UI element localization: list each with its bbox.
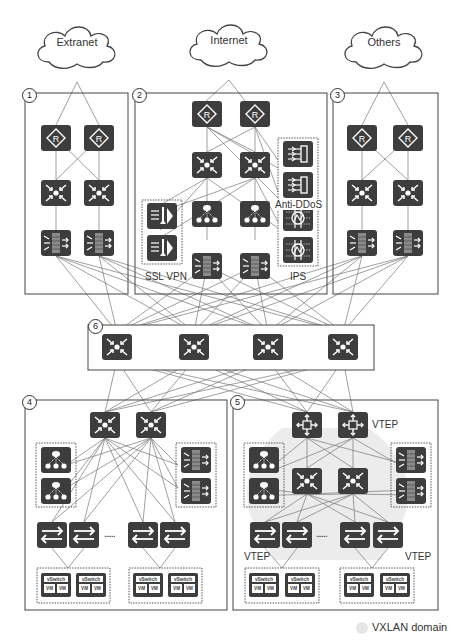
z5-access-switch-1-icon xyxy=(250,522,280,548)
z4-lb-2-icon xyxy=(41,478,71,504)
cloud-label-internet: Internet xyxy=(210,34,247,46)
anti-ddos-label: Anti-DDoS xyxy=(275,199,322,210)
z4-access-switch-1-icon xyxy=(37,522,67,548)
ssl-vpn-1-icon xyxy=(147,203,177,229)
z2-firewall-1-icon xyxy=(192,253,222,279)
z5-server-4-icon xyxy=(380,573,410,597)
z4-access-switch-4-icon xyxy=(160,522,190,548)
ssl-vpn-label: SSL VPN xyxy=(145,271,187,282)
z1-firewall-2-icon xyxy=(84,230,114,256)
vtep-right-label: VTEP xyxy=(405,551,431,562)
ssl-vpn-2-icon xyxy=(147,235,177,261)
zone-badge-2: 2 xyxy=(132,88,147,103)
z2-lb-1-icon xyxy=(192,201,222,227)
z3-router-2-icon xyxy=(393,125,423,151)
z3-router-1-icon xyxy=(347,125,377,151)
z1-switch-1-icon xyxy=(41,180,71,206)
z4-agg-switch-1-icon xyxy=(90,412,120,438)
legend-label: VXLAN domain xyxy=(372,621,447,633)
z2-router-2-icon xyxy=(240,101,270,127)
core-switch-1-icon xyxy=(102,334,132,360)
cloud-label-extranet: Extranet xyxy=(57,36,98,48)
z2-switch-1-icon xyxy=(192,152,222,178)
anti-ddos-2-icon xyxy=(283,172,313,198)
cloud-label-others: Others xyxy=(367,36,400,48)
z5-switch-1-icon xyxy=(292,468,322,494)
zone-badge-3: 3 xyxy=(330,88,345,103)
z5-access-switch-3-icon xyxy=(340,522,370,548)
z3-switch-2-icon xyxy=(393,180,423,206)
z5-server-3-icon xyxy=(344,573,374,597)
vtep-left-label: VTEP xyxy=(244,551,270,562)
zone-badge-1: 1 xyxy=(22,88,37,103)
z5-lb-1-icon xyxy=(249,447,279,473)
z5-spine-vtep-2-icon xyxy=(338,412,368,438)
vtep-spine-label: VTEP xyxy=(372,419,398,430)
z4-access-switch-2-icon xyxy=(69,522,99,548)
z5-server-1-icon xyxy=(249,573,279,597)
z2-router-1-icon xyxy=(192,101,222,127)
z5-switch-2-icon xyxy=(338,468,368,494)
core-switch-2-icon xyxy=(179,334,209,360)
z2-lb-2-icon xyxy=(240,201,270,227)
z2-firewall-2-icon xyxy=(240,253,270,279)
z5-server-2-icon xyxy=(285,573,315,597)
z1-router-1-icon xyxy=(41,125,71,151)
legend-swatch xyxy=(356,622,368,634)
z3-firewall-1-icon xyxy=(347,230,377,256)
z1-firewall-1-icon xyxy=(41,230,71,256)
z4-lb-1-icon xyxy=(41,447,71,473)
z3-switch-1-icon xyxy=(347,180,377,206)
ips-label: IPS xyxy=(290,271,306,282)
z1-router-2-icon xyxy=(84,125,114,151)
z5-spine-vtep-1-icon xyxy=(292,412,322,438)
z4-server-2-icon xyxy=(76,573,106,597)
z4-server-4-icon xyxy=(168,573,198,597)
z4-server-1-icon xyxy=(41,573,71,597)
z3-firewall-2-icon xyxy=(393,230,423,256)
z1-switch-2-icon xyxy=(84,180,114,206)
z5-access-switch-2-icon xyxy=(282,522,312,548)
network-diagram: R xyxy=(0,0,463,644)
ips-2-icon xyxy=(283,237,313,263)
z5-firewall-2-icon xyxy=(396,478,426,504)
ellipsis-zone-5: ...... xyxy=(316,528,327,539)
anti-ddos-1-icon xyxy=(283,141,313,167)
z2-switch-2-icon xyxy=(240,152,270,178)
z4-agg-switch-2-icon xyxy=(136,412,166,438)
z5-access-switch-4-icon xyxy=(373,522,403,548)
z4-access-switch-3-icon xyxy=(128,522,158,548)
z4-server-3-icon xyxy=(133,573,163,597)
z5-firewall-1-icon xyxy=(396,447,426,473)
zone-badge-6: 6 xyxy=(88,319,103,334)
core-switch-3-icon xyxy=(253,334,283,360)
zone-badge-5: 5 xyxy=(230,395,245,410)
zone-badge-4: 4 xyxy=(22,395,37,410)
ellipsis-zone-4: ...... xyxy=(104,528,115,539)
z5-lb-2-icon xyxy=(249,478,279,504)
z4-firewall-1-icon xyxy=(181,447,211,473)
core-switch-4-icon xyxy=(328,334,358,360)
z4-firewall-2-icon xyxy=(181,478,211,504)
